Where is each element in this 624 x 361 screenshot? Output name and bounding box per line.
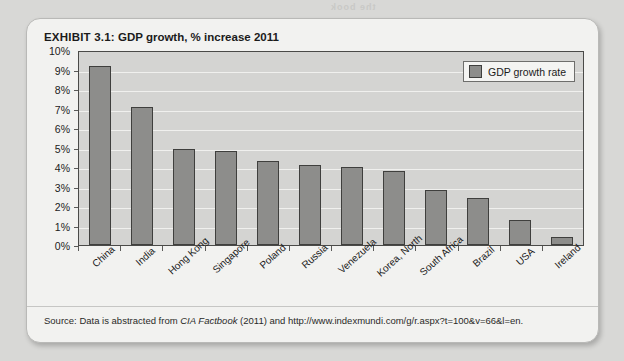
legend-swatch-icon	[469, 65, 482, 78]
plot-area: GDP growth rate	[78, 51, 584, 246]
x-label-slot: China	[78, 251, 120, 311]
x-label-slot: Korea, North	[373, 251, 415, 311]
bar-china[interactable]	[89, 66, 111, 245]
y-axis: 10%9%8%7%6%5%4%3%2%1%0%	[44, 51, 74, 246]
page-bleed-text-top: the book	[330, 2, 376, 12]
bar-south-africa[interactable]	[425, 190, 447, 245]
exhibit-card: EXHIBIT 3.1: GDP growth, % increase 2011…	[26, 18, 599, 343]
x-label-slot: South Africa	[415, 251, 457, 311]
bar-slot	[373, 52, 415, 245]
y-axis-tick-label: 1%	[55, 221, 70, 233]
source-citation: CIA Factbook	[180, 315, 237, 326]
bar-slot	[163, 52, 205, 245]
bar-slot	[415, 52, 457, 245]
y-axis-tick-label: 9%	[55, 65, 70, 77]
x-axis-labels: ChinaIndiaHong KongSingaporePolandRussia…	[78, 251, 584, 311]
y-axis-tick-label: 5%	[55, 143, 70, 155]
exhibit-number: EXHIBIT 3.1:	[44, 31, 115, 43]
bar-poland[interactable]	[257, 161, 279, 245]
y-axis-tick-label: 4%	[55, 162, 70, 174]
chart-legend: GDP growth rate	[463, 61, 575, 82]
bar-venezuela[interactable]	[341, 167, 363, 245]
y-axis-tick-label: 0%	[55, 240, 70, 252]
bar-slot	[247, 52, 289, 245]
bar-slot	[331, 52, 373, 245]
bar-hong-kong[interactable]	[173, 149, 195, 245]
y-axis-tick-label: 3%	[55, 182, 70, 194]
bar-slot	[79, 52, 121, 245]
x-label-slot: Russia	[289, 251, 331, 311]
bar-korea-north[interactable]	[383, 171, 405, 245]
y-axis-tick-label: 10%	[49, 45, 70, 57]
x-label-slot: India	[120, 251, 162, 311]
bar-usa[interactable]	[509, 220, 531, 245]
x-label-slot: Venezuela	[331, 251, 373, 311]
x-label-slot: USA	[500, 251, 542, 311]
x-label-slot: Brazil	[458, 251, 500, 311]
y-axis-tick-label: 2%	[55, 201, 70, 213]
source-note: Source: Data is abstracted from CIA Fact…	[44, 315, 523, 326]
exhibit-title: EXHIBIT 3.1: GDP growth, % increase 2011	[44, 31, 279, 43]
bar-slot	[121, 52, 163, 245]
source-prefix: Source: Data is abstracted from	[44, 315, 180, 326]
y-axis-tick-label: 7%	[55, 104, 70, 116]
exhibit-title-text: GDP growth, % increase 2011	[118, 31, 279, 43]
gdp-growth-bar-chart: 10%9%8%7%6%5%4%3%2%1%0% GDP growth rate …	[44, 51, 584, 281]
y-axis-tick-label: 8%	[55, 84, 70, 96]
x-label-slot: Hong Kong	[162, 251, 204, 311]
bar-slot	[205, 52, 247, 245]
y-axis-tick-label: 6%	[55, 123, 70, 135]
source-divider	[27, 306, 598, 307]
source-suffix: (2011) and http://www.indexmundi.com/g/r…	[237, 315, 523, 326]
bar-slot	[289, 52, 331, 245]
bar-ireland[interactable]	[551, 237, 573, 245]
x-label-slot: Poland	[247, 251, 289, 311]
x-label-slot: Ireland	[542, 251, 584, 311]
legend-label: GDP growth rate	[488, 66, 566, 78]
x-label-slot: Singapore	[205, 251, 247, 311]
bar-singapore[interactable]	[215, 151, 237, 245]
bar-india[interactable]	[131, 107, 153, 245]
bar-russia[interactable]	[299, 165, 321, 245]
bar-brazil[interactable]	[467, 198, 489, 245]
